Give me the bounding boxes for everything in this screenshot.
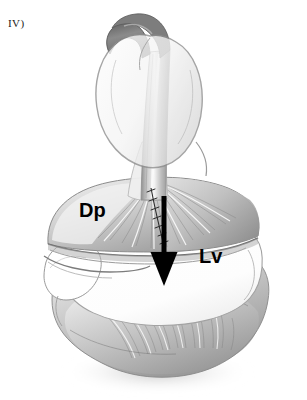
label-lv: Lv bbox=[199, 246, 222, 266]
anatomical-illustration bbox=[0, 0, 307, 400]
figure-root: IV) Dp Lv bbox=[0, 0, 307, 400]
panel-label: IV) bbox=[8, 18, 24, 29]
label-dp: Dp bbox=[79, 200, 106, 220]
